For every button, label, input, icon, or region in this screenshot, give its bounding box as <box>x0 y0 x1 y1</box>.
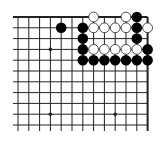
black-stone <box>56 23 67 34</box>
black-stone <box>142 55 153 66</box>
white-stone <box>89 45 99 55</box>
black-stone <box>78 55 89 66</box>
black-stone <box>78 44 89 55</box>
star-point <box>113 112 117 116</box>
black-stone <box>142 44 153 55</box>
white-stone <box>132 45 142 55</box>
white-stone <box>100 23 110 33</box>
go-board <box>0 0 163 148</box>
white-stone <box>110 23 120 33</box>
star-point <box>49 112 53 116</box>
white-stone <box>89 23 99 33</box>
black-stone <box>88 55 99 66</box>
white-stone <box>121 12 131 22</box>
white-stone <box>89 12 99 22</box>
black-stone <box>132 23 143 34</box>
white-stone <box>121 45 131 55</box>
black-stone <box>99 55 110 66</box>
black-stone <box>132 12 143 23</box>
white-stone <box>100 45 110 55</box>
black-stone <box>132 33 143 44</box>
black-stone <box>78 23 89 34</box>
black-stone <box>132 55 143 66</box>
black-stone <box>110 55 121 66</box>
black-stone <box>121 55 132 66</box>
white-stone <box>143 23 153 33</box>
star-point <box>49 48 53 52</box>
black-stone <box>78 33 89 44</box>
white-stone <box>110 45 120 55</box>
white-stone <box>121 23 131 33</box>
